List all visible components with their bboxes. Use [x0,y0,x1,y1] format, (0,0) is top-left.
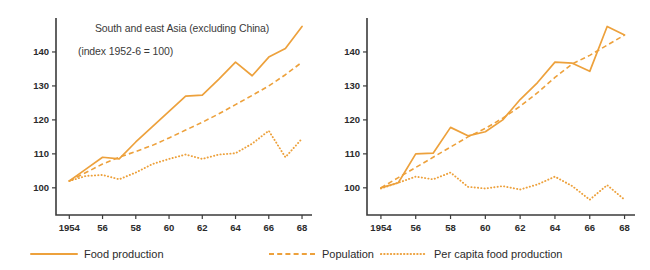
legend-label-population: Population [322,248,374,260]
series-line-per-capita [69,131,302,181]
legend-item-food-production: Food production [30,248,164,260]
y-axis-tick-label: 100 [33,182,49,193]
x-axis-tick-label: 64 [550,222,561,233]
x-axis-tick-label: 66 [584,222,595,233]
x-axis-tick-label: 60 [480,222,491,233]
y-axis-tick-label: 120 [344,114,360,125]
series-line-population [381,35,625,188]
chart-panel-south-east-asia: 100110120130140195456586062646668 South … [0,0,325,244]
figure-root: 100110120130140195456586062646668 South … [0,0,650,270]
legend-swatch-solid-icon [30,249,78,259]
legend-item-population: Population [268,248,374,260]
series-line-food-production [381,26,625,187]
chart-canvas-right: 100110120130140195456586062646668 [325,0,650,244]
x-axis-tick-label: 56 [97,222,108,233]
x-axis-tick-label: 64 [230,222,241,233]
legend-label-food-production: Food production [84,248,164,260]
x-axis-tick-label: 1954 [370,222,392,233]
legend-item-per-capita-food-production: Per capita food production [380,248,562,260]
x-axis-tick-label: 62 [515,222,526,233]
y-axis-tick-label: 120 [33,114,49,125]
chart-title-left-line1: South and east Asia (excluding China) [95,22,269,34]
legend-label-per-capita: Per capita food production [434,248,562,260]
x-axis-tick-label: 68 [619,222,630,233]
x-axis-tick-label: 60 [164,222,175,233]
legend-swatch-dotted-icon [380,249,428,259]
chart-title-left: South and east Asia (excluding China) (i… [78,11,269,80]
y-axis-tick-label: 140 [344,46,360,57]
x-axis-tick-label: 62 [197,222,208,233]
x-axis-tick-label: 68 [297,222,308,233]
y-axis-tick-label: 140 [33,46,49,57]
x-axis-tick-label: 58 [131,222,142,233]
x-axis-tick-label: 1954 [59,222,81,233]
y-axis-tick-label: 130 [344,80,360,91]
x-axis-tick-label: 56 [410,222,421,233]
y-axis-tick-label: 130 [33,80,49,91]
x-axis-tick-label: 58 [445,222,456,233]
series-line-per-capita [381,173,625,200]
y-axis-tick-label: 100 [344,182,360,193]
x-axis-tick-label: 66 [263,222,274,233]
legend-swatch-dashed-icon [268,249,316,259]
chart-panel-latin-america: 100110120130140195456586062646668 Latin … [325,0,650,244]
y-axis-tick-label: 110 [345,148,360,159]
y-axis-tick-label: 110 [34,148,49,159]
figure-legend: Food production Population Per capita fo… [0,246,650,270]
chart-title-left-line2: (index 1952-6 = 100) [78,46,269,58]
